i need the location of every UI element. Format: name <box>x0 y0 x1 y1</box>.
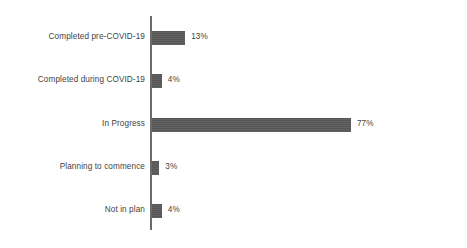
bar-value-label: 13% <box>191 30 208 44</box>
category-label: Not in plan <box>0 203 145 217</box>
category-label: Planning to commence <box>0 160 145 174</box>
bar-chart: Completed pre-COVID-19 13% Completed dur… <box>0 0 467 248</box>
category-label: Completed during COVID-19 <box>0 73 145 87</box>
bar-row: Planning to commence 3% <box>0 161 467 175</box>
category-label: In Progress <box>0 117 145 131</box>
bar-completed-pre-covid-19[interactable] <box>152 31 186 45</box>
bar-in-progress[interactable] <box>152 118 351 132</box>
bar-row: Completed during COVID-19 4% <box>0 74 467 88</box>
category-label: Completed pre-COVID-19 <box>0 30 145 44</box>
bar-value-label: 77% <box>357 117 374 131</box>
bar-row: In Progress 77% <box>0 118 467 132</box>
bar-not-in-plan[interactable] <box>152 204 162 218</box>
bar-row: Completed pre-COVID-19 13% <box>0 31 467 45</box>
bar-value-label: 4% <box>168 73 180 87</box>
bar-value-label: 3% <box>165 160 177 174</box>
bar-value-label: 4% <box>168 203 180 217</box>
bar-planning-to-commence[interactable] <box>152 161 160 175</box>
bar-completed-during-covid-19[interactable] <box>152 74 162 88</box>
bar-row: Not in plan 4% <box>0 204 467 218</box>
